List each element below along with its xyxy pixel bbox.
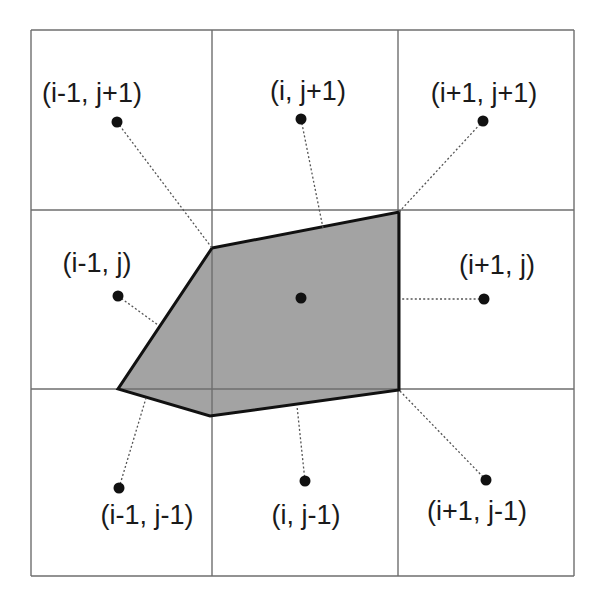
grid-diagram: (i-1, j+1)(i, j+1)(i+1, j+1)(i-1, j)(i+1… [0,0,604,605]
dot-i_j-1 [300,476,311,487]
dot-i-1_j+1 [112,117,123,128]
dot-i_j [296,293,307,304]
dot-i_j+1 [296,114,307,125]
label-i-1_j: (i-1, j) [63,248,132,278]
label-i-1_j-1: (i-1, j-1) [101,500,194,530]
label-i+1_j+1: (i+1, j+1) [431,78,538,108]
label-i-1_j+1: (i-1, j+1) [42,78,142,108]
dot-i+1_j+1 [478,116,489,127]
label-i_j+1: (i, j+1) [270,76,346,106]
dot-i-1_j [113,291,124,302]
dot-i-1_j-1 [114,483,125,494]
label-i+1_j: (i+1, j) [459,250,535,280]
label-i_j-1: (i, j-1) [272,500,341,530]
label-i+1_j-1: (i+1, j-1) [427,496,527,526]
dot-i+1_j [479,294,490,305]
dot-i+1_j-1 [481,475,492,486]
